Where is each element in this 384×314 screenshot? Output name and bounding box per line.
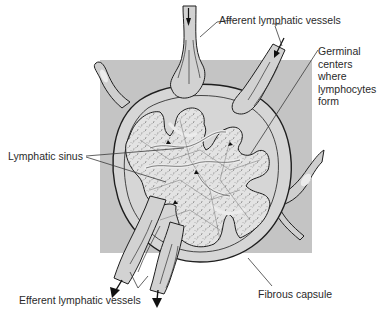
label-germinal-line4: lymphocytes: [318, 83, 384, 96]
label-efferent-lymphatic-vessels: Efferent lymphatic vessels: [19, 294, 141, 307]
label-fibrous-capsule: Fibrous capsule: [258, 288, 332, 301]
lymph-node-diagram: Afferent lymphatic vessels Germinal cent…: [0, 0, 384, 314]
afferent-vessel-top: [171, 6, 205, 98]
label-afferent-lymphatic-vessels: Afferent lymphatic vessels: [219, 14, 341, 27]
label-germinal-centers: Germinal centers where lymphocytes form: [318, 45, 384, 108]
label-germinal-line5: form: [318, 95, 384, 108]
label-lymphatic-sinus: Lymphatic sinus: [8, 150, 83, 163]
label-germinal-line2: centers: [318, 58, 384, 71]
label-germinal-line1: Germinal: [318, 45, 384, 58]
label-germinal-line3: where: [318, 70, 384, 83]
